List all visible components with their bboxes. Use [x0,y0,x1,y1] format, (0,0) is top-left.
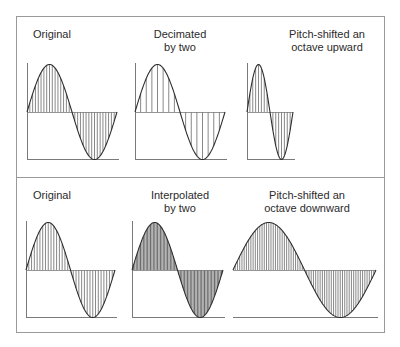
wave-top-2 [247,63,295,160]
wave-bottom-4 [132,221,225,318]
sine-curve [27,65,117,160]
sine-curve [132,223,223,318]
sine-curve [135,65,225,160]
label-bottom-original: Original [33,189,71,202]
wave-top-1 [135,63,227,160]
wave-bottom-3 [26,221,117,318]
label-top-original: Original [33,28,71,41]
label-bottom-pitch-down: Pitch-shifted an octave downward [252,189,362,215]
label-top-decimated: Decimated by two [130,28,230,54]
label-top-pitch-up: Pitch-shifted an octave upward [272,28,382,54]
sine-curve [247,65,293,160]
sine-curve [26,223,115,318]
sampling-diagram: Original Decimated by two Pitch-shifted … [0,0,400,347]
wave-top-0 [27,63,119,160]
sine-curve [233,223,376,318]
wave-bottom-5 [233,223,378,318]
label-bottom-interpolated: Interpolated by two [130,189,230,215]
